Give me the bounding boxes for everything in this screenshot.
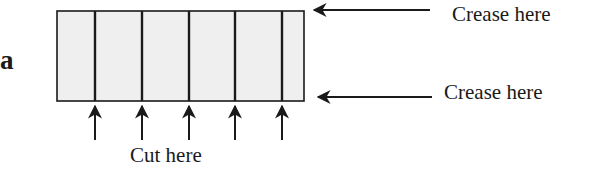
cut-arrow-icons <box>95 106 282 140</box>
crease-top-label: Crease here <box>452 2 551 27</box>
panel-label: a <box>0 45 14 76</box>
cut-label: Cut here <box>130 143 202 168</box>
crease-bottom-label: Crease here <box>444 80 543 105</box>
paper-strip-diagram: a Crease here Crease here Cut here <box>0 0 591 173</box>
